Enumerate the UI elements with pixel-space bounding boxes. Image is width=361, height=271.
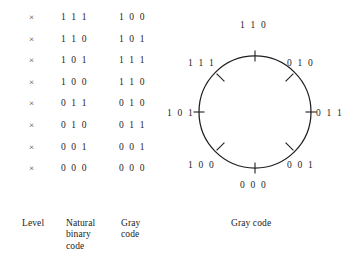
level-marker: × xyxy=(29,55,34,66)
level-marker: × xyxy=(29,77,34,88)
natural-binary-value: 0 1 0 xyxy=(61,120,88,131)
column-header-gray-code: Gray code xyxy=(121,218,140,241)
gray-code-value: 0 0 1 xyxy=(119,142,146,153)
tick-upper-left xyxy=(217,74,225,82)
circle-label-bottom: 0 0 0 xyxy=(240,180,268,191)
gray-code-value: 1 1 1 xyxy=(119,55,146,66)
tick-upper-right xyxy=(286,74,294,82)
gray-code-value: 0 1 1 xyxy=(119,120,146,131)
natural-binary-value: 1 1 0 xyxy=(61,34,88,45)
circle-label-right: 0 1 1 xyxy=(316,108,344,119)
level-marker: × xyxy=(29,163,34,174)
code-circle xyxy=(199,56,311,168)
circle-label-lower-left: 1 0 0 xyxy=(188,160,216,171)
table-row: × 1 0 1 1 1 1 xyxy=(0,55,175,77)
natural-binary-value: 1 0 1 xyxy=(61,55,88,66)
table-row: × 1 1 1 1 0 0 xyxy=(0,12,175,34)
level-marker: × xyxy=(29,120,34,131)
circle-graphic xyxy=(165,0,361,271)
level-marker: × xyxy=(29,98,34,109)
natural-binary-value: 1 1 1 xyxy=(61,12,88,23)
circle-label-lower-right: 0 0 1 xyxy=(287,160,315,171)
circle-label-top: 1 1 0 xyxy=(240,20,268,31)
circle-caption: Gray code xyxy=(231,218,271,229)
table-row: × 0 1 1 0 1 0 xyxy=(0,98,175,120)
level-marker: × xyxy=(29,142,34,153)
gray-code-value: 0 1 0 xyxy=(119,98,146,109)
level-marker: × xyxy=(29,12,34,23)
gray-code-value: 1 0 0 xyxy=(119,12,146,23)
column-header-level: Level xyxy=(22,218,44,229)
circle-label-upper-left: 1 1 1 xyxy=(188,58,216,69)
table-row: × 0 1 0 0 1 1 xyxy=(0,120,175,142)
circle-label-left: 1 0 1 xyxy=(167,108,195,119)
natural-binary-value: 0 0 1 xyxy=(61,142,88,153)
table-row: × 0 0 1 0 0 1 xyxy=(0,142,175,164)
gray-code-figure: × 1 1 1 1 0 0 × 1 1 0 1 0 1 × 1 0 1 1 1 … xyxy=(0,0,361,271)
table-row: × 1 1 0 1 0 1 xyxy=(0,34,175,56)
level-marker: × xyxy=(29,34,34,45)
natural-binary-value: 0 1 1 xyxy=(61,98,88,109)
natural-binary-value: 0 0 0 xyxy=(61,163,88,174)
column-header-natural-binary: Natural binary code xyxy=(66,218,95,252)
gray-code-circle-diagram: 1 1 0 0 1 0 0 1 1 0 0 1 0 0 0 1 0 0 1 0 … xyxy=(165,0,361,271)
tick-lower-left xyxy=(217,143,225,151)
gray-code-value: 1 0 1 xyxy=(119,34,146,45)
circle-label-upper-right: 0 1 0 xyxy=(287,58,315,69)
gray-code-value: 1 1 0 xyxy=(119,77,146,88)
table-row: × 1 0 0 1 1 0 xyxy=(0,77,175,99)
tick-lower-right xyxy=(286,143,294,151)
code-table: × 1 1 1 1 0 0 × 1 1 0 1 0 1 × 1 0 1 1 1 … xyxy=(0,0,175,271)
table-row: × 0 0 0 0 0 0 xyxy=(0,163,175,185)
natural-binary-value: 1 0 0 xyxy=(61,77,88,88)
gray-code-value: 0 0 0 xyxy=(119,163,146,174)
